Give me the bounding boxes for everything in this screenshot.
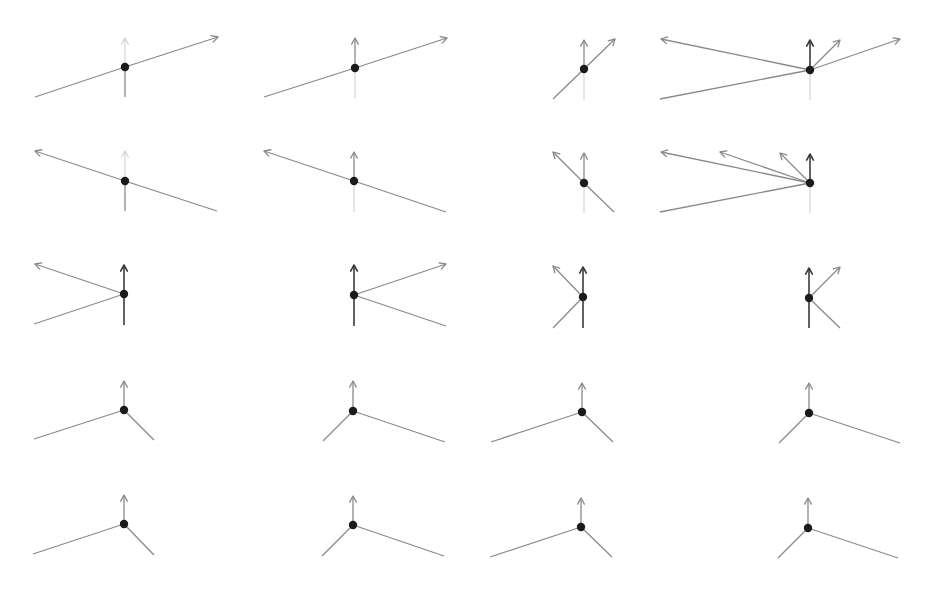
edge-line	[490, 527, 581, 557]
vertex-dot	[805, 294, 813, 302]
edge-line	[264, 68, 355, 97]
vertex-dot	[349, 521, 357, 529]
edge-arrow	[264, 151, 354, 181]
vertex-dot	[580, 65, 588, 73]
vertex-diagram-r3c2	[350, 263, 446, 326]
vertex-dot	[578, 408, 586, 416]
vertex-dot	[120, 406, 128, 414]
vertex-diagram-r4c1	[34, 381, 154, 440]
edge-arrow	[354, 264, 446, 295]
edge-line	[353, 411, 445, 442]
vertex-dot	[577, 523, 585, 531]
vertex-diagram-r4c2	[323, 381, 445, 442]
vertex-diagram-r3c1	[34, 263, 128, 325]
edge-line	[660, 183, 810, 212]
vertex-dot	[350, 291, 358, 299]
edge-line	[553, 297, 583, 328]
edge-arrow	[35, 264, 124, 294]
edge-arrow	[125, 37, 218, 67]
edge-arrow	[810, 39, 900, 70]
vertex-dot	[121, 63, 129, 71]
edge-line	[778, 528, 808, 558]
edge-line	[34, 294, 124, 324]
edge-line	[660, 70, 810, 99]
vertex-dot	[806, 179, 814, 187]
edge-line	[354, 181, 446, 212]
vertex-diagram-r5c2	[322, 496, 444, 556]
vertex-dot	[805, 409, 813, 417]
edge-line	[354, 295, 446, 326]
vertex-dot	[121, 177, 129, 185]
edge-line	[124, 410, 154, 440]
edge-line	[553, 69, 584, 99]
edge-arrow	[553, 266, 583, 297]
edge-arrow	[584, 39, 615, 69]
vertex-dot	[350, 177, 358, 185]
edge-line	[808, 528, 898, 558]
edge-line	[124, 524, 154, 555]
edge-line	[582, 412, 613, 442]
vertex-diagram-r1c1	[35, 36, 218, 97]
edge-line	[35, 67, 125, 97]
edge-line	[353, 525, 444, 556]
vertex-dot	[579, 293, 587, 301]
vertex-diagram-r2c2	[264, 150, 446, 212]
edge-line	[33, 524, 124, 554]
vertex-diagram-r2c1	[35, 150, 217, 211]
vertex-diagram-r3c3	[553, 266, 587, 328]
edge-line	[779, 413, 809, 443]
vertex-diagram-r5c4	[778, 498, 898, 558]
vertex-diagram-r4c4	[779, 383, 900, 443]
vertex-diagram-grid	[0, 0, 933, 590]
edge-arrow	[809, 267, 840, 298]
vertex-diagram-r5c1	[33, 495, 154, 555]
edge-line	[809, 298, 840, 328]
vertex-diagram-r1c2	[264, 37, 447, 98]
edge-line	[581, 527, 612, 557]
edge-arrow	[553, 152, 584, 183]
vertex-dot	[580, 179, 588, 187]
vertex-dot	[806, 66, 814, 74]
edge-line	[125, 181, 217, 211]
edge-arrow	[661, 152, 810, 183]
vertex-dot	[349, 407, 357, 415]
vertex-diagram-r3c4	[805, 267, 840, 328]
edge-arrow	[661, 39, 810, 70]
edge-arrow	[35, 151, 125, 181]
vertex-diagram-r2c3	[553, 152, 614, 213]
vertex-diagram-r2c4	[660, 150, 814, 213]
edge-arrow	[355, 38, 447, 68]
edge-line	[809, 413, 900, 443]
vertex-diagram-r5c3	[490, 498, 612, 557]
edge-line	[322, 525, 353, 556]
vertex-diagram-r4c3	[491, 383, 613, 442]
vertex-dot	[804, 524, 812, 532]
figure-canvas	[0, 0, 933, 590]
vertex-dot	[120, 290, 128, 298]
edge-line	[491, 412, 582, 442]
edge-line	[323, 411, 353, 441]
vertex-dot	[351, 64, 359, 72]
edge-line	[34, 410, 124, 439]
vertex-diagram-r1c4	[660, 37, 900, 100]
vertex-diagram-r1c3	[553, 39, 615, 100]
edge-line	[584, 183, 614, 212]
vertex-dot	[120, 520, 128, 528]
